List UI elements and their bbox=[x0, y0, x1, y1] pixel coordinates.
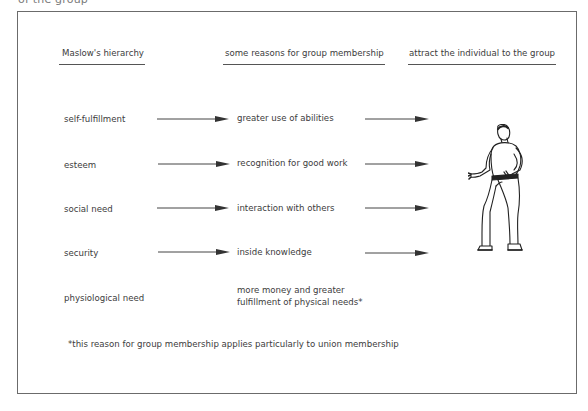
arrow-right-icon bbox=[157, 204, 229, 212]
arrow-right-icon bbox=[157, 115, 229, 123]
arrow-right-icon bbox=[365, 115, 429, 123]
need-social: social need bbox=[64, 204, 113, 215]
top-caption-cut: of the group bbox=[18, 0, 88, 6]
need-physiological: physiological need bbox=[64, 293, 144, 304]
header-maslow-hierarchy: Maslow's hierarchy bbox=[62, 48, 144, 59]
arrow-right-icon bbox=[365, 160, 429, 168]
walking-man-illustration-icon bbox=[468, 124, 548, 254]
reason-more-money-line2: fulfillment of physical needs* bbox=[237, 297, 362, 308]
header-underline-col2 bbox=[223, 64, 385, 65]
need-security: security bbox=[64, 248, 98, 259]
header-group-membership-reasons: some reasons for group membership bbox=[225, 48, 384, 59]
reason-inside-knowledge: inside knowledge bbox=[237, 247, 312, 258]
reason-recognition-for-good-work: recognition for good work bbox=[237, 158, 348, 169]
reason-more-money-line1: more money and greater bbox=[237, 285, 345, 296]
header-underline-col3 bbox=[408, 64, 556, 65]
header-underline-col1 bbox=[59, 64, 145, 65]
reason-interaction-with-others: interaction with others bbox=[237, 203, 335, 214]
arrow-right-icon bbox=[365, 249, 429, 257]
arrow-right-icon bbox=[365, 204, 429, 212]
header-attract-individual: attract the individual to the group bbox=[409, 48, 555, 59]
arrow-right-icon bbox=[158, 248, 230, 256]
need-self-fulfillment: self-fulfillment bbox=[64, 114, 125, 125]
reason-greater-use-of-abilities: greater use of abilities bbox=[237, 113, 334, 124]
need-esteem: esteem bbox=[64, 160, 96, 171]
arrow-right-icon bbox=[158, 160, 230, 168]
footnote: *this reason for group membership applie… bbox=[68, 339, 399, 350]
